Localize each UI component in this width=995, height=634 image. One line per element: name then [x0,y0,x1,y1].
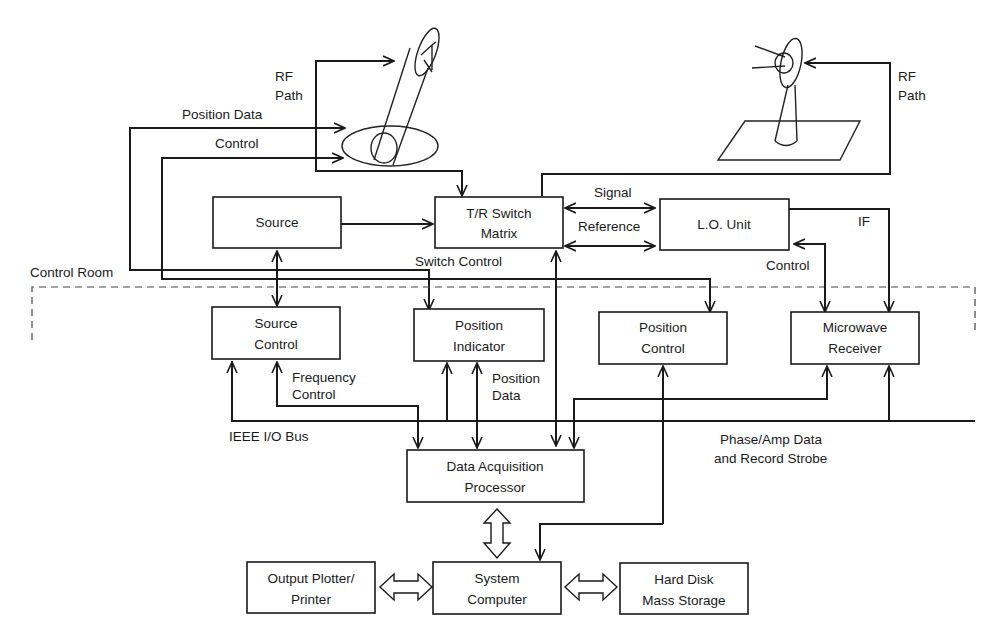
output-plotter-printer-block[interactable]: Output Plotter/ Printer [247,562,375,613]
phase-amp-label-2: and Record Strobe [714,451,827,466]
hard-disk-mass-storage-block[interactable]: Hard Disk Mass Storage [620,563,748,614]
position-indicator-block[interactable]: Position Indicator [414,309,544,361]
svg-text:Mass Storage: Mass Storage [642,593,725,608]
svg-text:Source: Source [255,316,298,331]
system-computer-block[interactable]: System Computer [433,562,561,614]
position-control-block[interactable]: Position Control [599,312,727,364]
svg-text:Computer: Computer [467,592,527,607]
svg-text:Data Acquisition: Data Acquisition [447,459,544,474]
signal-label: Signal [594,185,632,200]
rf-path-label-right-2: Path [898,88,926,103]
svg-text:Control: Control [254,337,298,352]
lo-control-label: Control [766,258,810,273]
svg-text:Printer: Printer [291,592,331,607]
position-data-label-1: Position [492,371,540,386]
svg-text:Hard Disk: Hard Disk [654,572,714,587]
position-data-label-2: Data [492,388,521,403]
antenna-measurement-system-diagram: RF Path RF Path Position Data Control Co… [0,0,995,634]
source-control-block[interactable]: Source Control [212,307,340,359]
rf-path-label-left-2: Path [275,88,303,103]
svg-text:Processor: Processor [465,480,526,495]
computer-disk-bus-arrow [565,574,617,600]
svg-text:Position: Position [639,320,687,335]
reference-label: Reference [578,219,640,234]
data-acquisition-processor-block[interactable]: Data Acquisition Processor [407,450,584,502]
rf-path-label-right-1: RF [898,69,916,84]
switch-control-label: Switch Control [415,254,502,269]
source-antenna-icon [718,36,860,160]
ieee-bus-label: IEEE I/O Bus [229,429,309,444]
svg-text:Microwave: Microwave [823,320,888,335]
position-data-top-label: Position Data [182,107,263,122]
rf-path-source-wire [542,63,890,196]
svg-text:T/R Switch: T/R Switch [466,206,531,221]
lo-unit-block[interactable]: L.O. Unit [660,199,789,250]
svg-text:Output Plotter/: Output Plotter/ [267,571,354,586]
phase-amp-label-1: Phase/Amp Data [720,432,823,447]
if-label: IF [858,214,870,229]
plotter-computer-bus-arrow [380,574,432,600]
dap-computer-bus-arrow [484,509,510,558]
tr-switch-matrix-block[interactable]: T/R Switch Matrix [435,197,563,248]
svg-text:Indicator: Indicator [453,339,505,354]
control-top-label: Control [215,136,259,151]
svg-text:L.O. Unit: L.O. Unit [697,217,751,232]
svg-text:System: System [474,571,519,586]
aut-antenna-icon [342,25,444,166]
source-block[interactable]: Source [213,197,341,248]
svg-text:Matrix: Matrix [481,226,518,241]
svg-text:Control: Control [641,341,685,356]
control-room-label: Control Room [30,265,113,280]
frequency-control-label-1: Frequency [292,370,356,385]
microwave-receiver-block[interactable]: Microwave Receiver [791,312,919,364]
rf-path-label-left-1: RF [275,69,293,84]
frequency-control-label-2: Control [292,387,336,402]
svg-text:Receiver: Receiver [828,341,882,356]
svg-text:Source: Source [256,215,299,230]
rf-path-aut-wire [316,61,462,178]
svg-text:Position: Position [455,318,503,333]
